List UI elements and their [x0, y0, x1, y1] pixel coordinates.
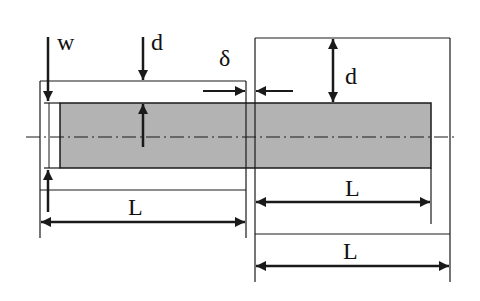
- label-w: w: [57, 30, 74, 54]
- label-L-left: L: [128, 195, 143, 219]
- label-d-right: d: [345, 64, 357, 88]
- label-delta: δ: [219, 46, 230, 70]
- label-L-right-outer: L: [343, 239, 358, 263]
- diagram-canvas: w d δ d L L L: [0, 0, 480, 301]
- label-d-left: d: [151, 30, 163, 54]
- label-L-right-inner: L: [345, 176, 360, 200]
